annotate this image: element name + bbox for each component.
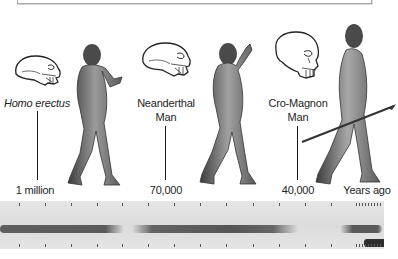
top-frame-box: [17, 0, 372, 4]
tick-top: [97, 203, 98, 206]
years-ago-axis-label: Years ago: [336, 184, 398, 197]
tick-bottom: [253, 244, 254, 247]
tick-bottom: [19, 244, 20, 247]
homo-erectus-figure-icon: [62, 43, 124, 188]
tick-top: [45, 203, 46, 206]
tick-top: [148, 203, 149, 206]
homo-erectus-time-label: 1 million: [2, 184, 68, 197]
tick-bottom: [174, 244, 175, 247]
tick-bottom: [97, 244, 98, 247]
neanderthal-skull-icon: [140, 40, 192, 80]
dense-ticks-bottom: [356, 244, 383, 247]
tick-top: [226, 203, 227, 206]
neanderthal-label-line-1: Neanderthal: [130, 97, 202, 110]
dense-ticks-top: [356, 203, 383, 206]
tick-bottom: [200, 244, 201, 247]
tick-bottom: [279, 244, 280, 247]
tick-top: [122, 203, 123, 206]
tick-top: [19, 203, 20, 206]
tick-bottom: [71, 244, 72, 247]
tick-top: [331, 203, 332, 206]
homo-erectus-span-band: [0, 225, 124, 233]
tick-bottom: [305, 244, 306, 247]
tick-top: [253, 203, 254, 206]
tick-bottom: [122, 244, 123, 247]
tick-top: [305, 203, 306, 206]
cro-magnon-span-band: [340, 225, 382, 233]
cro-magnon-figure-icon: [300, 24, 396, 188]
tick-top: [200, 203, 201, 206]
tick-bottom: [226, 244, 227, 247]
tick-top: [71, 203, 72, 206]
neanderthal-timeline-marker: [165, 126, 166, 180]
tick-bottom: [331, 244, 332, 247]
neanderthal-time-label: 70,000: [130, 184, 202, 197]
cro-magnon-timeline-marker: [297, 126, 298, 180]
tick-top: [174, 203, 175, 206]
neanderthal-label-line-2: Man: [130, 111, 202, 124]
timeline-bar: [0, 201, 384, 249]
tick-bottom: [148, 244, 149, 247]
tick-top: [279, 203, 280, 206]
neanderthal-figure-icon: [196, 40, 262, 188]
homo-erectus-timeline-marker: [37, 111, 38, 180]
homo-erectus-skull-icon: [12, 52, 62, 88]
tick-bottom: [45, 244, 46, 247]
neanderthal-span-band: [132, 225, 298, 233]
